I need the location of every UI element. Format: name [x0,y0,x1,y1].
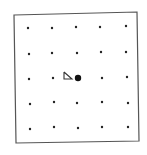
grid-dot [53,101,55,103]
grid-dot [28,78,30,80]
grid-dot [29,128,31,130]
grid-dot [76,52,78,54]
grid-dot [125,25,127,27]
grid-dot [101,126,103,128]
dot-grid-diagram [0,0,147,155]
grid-dot [27,27,29,29]
grid-dot [100,51,102,53]
grid-dot [99,26,101,28]
grid-dot [51,27,53,29]
grid-dot [127,102,129,104]
grid-dot [127,126,129,128]
viewer-triangle-icon [64,72,72,79]
grid-dot [76,102,78,104]
grid-dot [126,76,128,78]
grid-dot [28,53,30,55]
grid-dot [51,52,53,54]
grid-dot [101,77,103,79]
center-dot [75,75,81,81]
grid-dot [52,77,54,79]
grid-dot [77,127,79,129]
grid-dot [75,26,77,28]
grid-dot [53,126,55,128]
grid-dot [101,101,103,103]
grid-dot [29,103,31,105]
grid-dot [125,51,127,53]
